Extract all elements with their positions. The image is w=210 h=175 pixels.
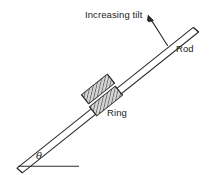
rod-label: Rod (176, 43, 194, 54)
physics-diagram-figure: Increasing tilt Rod Ring θ (0, 0, 210, 175)
diagram-canvas (0, 0, 210, 175)
rotation-direction-arrow (147, 15, 167, 45)
tilt-arrow-head (147, 15, 153, 22)
ring-label: Ring (107, 107, 127, 118)
tilt-arrow-curve (150, 18, 168, 46)
increasing-tilt-label: Increasing tilt (85, 9, 142, 20)
angle-theta-label: θ (36, 150, 42, 161)
